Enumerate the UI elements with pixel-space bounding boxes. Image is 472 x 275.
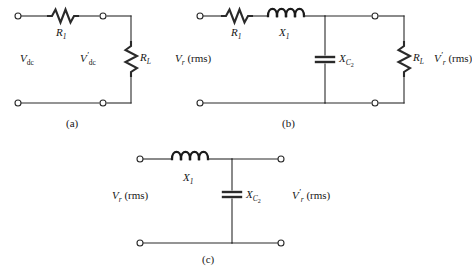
circuit-a-output-voltage-label: V′dc <box>80 53 96 64</box>
circuit-b-series-resistor-symbol <box>222 10 252 23</box>
circuit-a-load-resistor-label: RL <box>140 52 151 63</box>
circuit-c-caption: (c) <box>202 253 214 265</box>
circuit-b-terminal-input-bottom <box>197 100 203 106</box>
circuit-b-output-voltage-label: V′r (rms) <box>434 53 472 64</box>
circuit-b-series-inductor-label: X1 <box>279 27 289 38</box>
circuit-a-terminal-output-bottom <box>100 100 106 106</box>
circuit-b-shunt-capacitor-label: XC2 <box>339 53 354 64</box>
circuit-a-caption: (a) <box>66 117 78 129</box>
circuit-b-series-inductor-symbol <box>268 9 304 16</box>
circuit-c-output-voltage-label: V′r (rms) <box>292 190 330 201</box>
circuit-b-source-voltage-label: Vr (rms) <box>175 53 211 64</box>
circuit-c-series-inductor-label: X1 <box>183 172 193 183</box>
circuit-c-series-inductor-symbol <box>172 152 208 159</box>
circuit-a-series-resistor-symbol <box>48 10 78 23</box>
circuit-c-terminal-input-bottom <box>137 240 143 246</box>
circuit-b-load-resistor-symbol <box>399 42 411 76</box>
circuit-b-series-resistor-label: R1 <box>231 27 241 38</box>
circuit-a-terminal-output-top <box>100 13 106 19</box>
circuit-c-terminal-output-bottom <box>278 240 284 246</box>
circuit-b-load-resistor-label: RL <box>413 52 424 63</box>
circuit-a-terminal-input-bottom <box>15 100 21 106</box>
circuit-c-terminal-output-top <box>278 156 284 162</box>
circuit-b-terminal-input-top <box>197 13 203 19</box>
circuit-c-source-voltage-label: Vr (rms) <box>112 190 148 201</box>
circuit-c-terminal-input-top <box>137 156 143 162</box>
circuit-a-load-resistor-symbol <box>126 42 138 76</box>
circuit-b-terminal-output-bottom <box>372 100 378 106</box>
circuit-b-group <box>197 9 410 106</box>
circuit-c-group <box>137 152 284 246</box>
circuit-b-terminal-output-top <box>372 13 378 19</box>
circuit-c-shunt-capacitor-label: XC2 <box>246 189 261 200</box>
circuit-b-caption: (b) <box>282 117 295 129</box>
circuit-a-series-resistor-label: R1 <box>56 27 66 38</box>
circuit-a-source-voltage-label: Vdc <box>20 53 34 64</box>
circuit-a-terminal-input-top <box>15 13 21 19</box>
